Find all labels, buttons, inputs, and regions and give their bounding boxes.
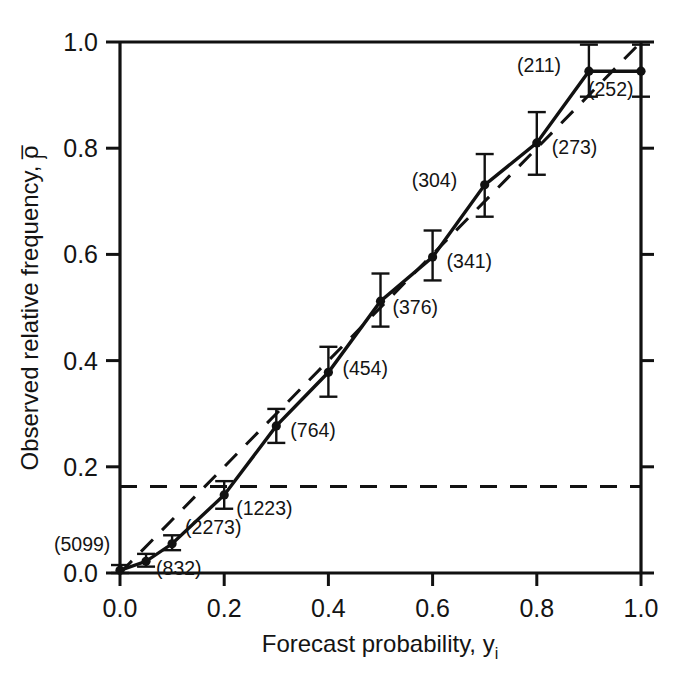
x-tick-label: 0.0 (103, 594, 138, 622)
count-annotation: (764) (290, 419, 336, 441)
count-annotation: (1223) (236, 497, 292, 519)
data-point (636, 67, 645, 76)
count-annotation: (5099) (54, 533, 110, 555)
reliability-diagram-figure: 0.00.20.40.60.81.0 0.00.20.40.60.81.0 (5… (0, 0, 687, 675)
y-tick-label: 0.8 (63, 134, 98, 162)
y-tick-label: 0.4 (63, 347, 98, 375)
data-point (168, 539, 177, 548)
y-tick-label: 0.2 (63, 453, 98, 481)
x-tick-label: 1.0 (624, 594, 659, 622)
y-axis-title: Observed relative frequency, o̅j (16, 145, 47, 470)
x-tick-label: 0.4 (311, 594, 346, 622)
data-point (141, 557, 150, 566)
data-point (532, 138, 541, 147)
data-point (115, 566, 124, 575)
data-point (272, 421, 281, 430)
count-annotation: (252) (588, 78, 634, 100)
count-annotation: (304) (412, 169, 458, 191)
x-tick-label: 0.2 (207, 594, 242, 622)
y-tick-label: 1.0 (63, 28, 98, 56)
data-point (324, 368, 333, 377)
count-annotation: (211) (517, 54, 561, 76)
count-annotation: (376) (393, 296, 439, 318)
count-annotation: (832) (156, 557, 202, 579)
y-axis-title-text: Observed relative frequency, o̅j (16, 145, 47, 470)
x-tick-label: 0.6 (415, 594, 450, 622)
data-point (220, 490, 229, 499)
data-point (428, 252, 437, 261)
count-annotation: (341) (447, 250, 493, 272)
chart-canvas: 0.00.20.40.60.81.0 0.00.20.40.60.81.0 (5… (0, 0, 687, 675)
count-annotation: (2273) (185, 516, 241, 538)
x-tick-label: 0.8 (519, 594, 554, 622)
data-point (584, 67, 593, 76)
count-annotation: (454) (342, 357, 388, 379)
count-annotation: (273) (552, 136, 598, 158)
y-tick-label: 0.6 (63, 240, 98, 268)
data-point (480, 180, 489, 189)
y-tick-label: 0.0 (63, 559, 98, 587)
data-point (376, 297, 385, 306)
